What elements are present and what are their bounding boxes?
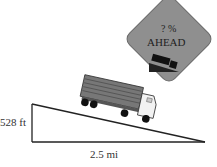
sign-percent-text: ? %	[161, 23, 176, 34]
sign-ahead-text: AHEAD	[147, 36, 186, 48]
base-label: 2.5 mi	[90, 148, 118, 160]
slope-triangle	[32, 104, 205, 142]
grade-diagram	[0, 0, 217, 167]
height-label: 528 ft	[0, 116, 26, 128]
